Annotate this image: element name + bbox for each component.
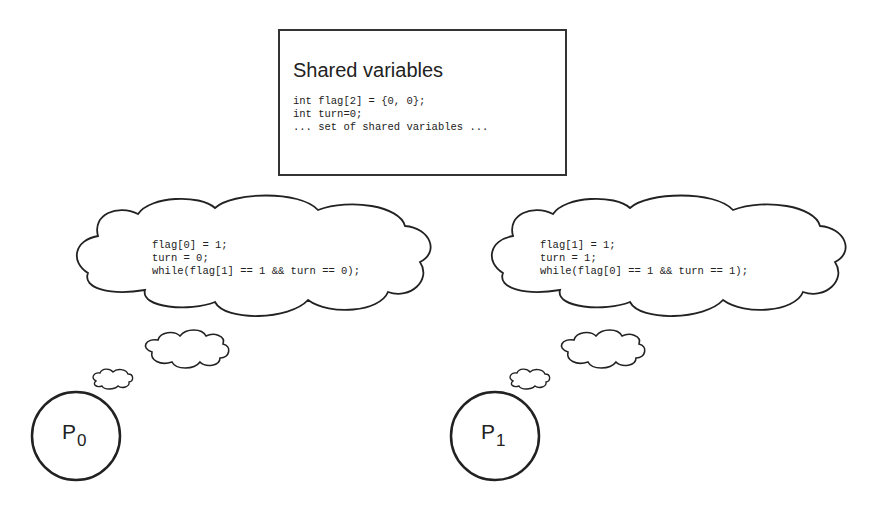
thought-bubble-medium-p0 [145,330,228,368]
code-line: ... set of shared variables ... [293,121,488,134]
code-line: while(flag[0] == 1 && turn == 1); [540,265,748,278]
thought-code-p1: flag[1] = 1;turn = 1;while(flag[0] == 1 … [540,239,748,278]
thought-bubble-small-p1 [510,369,550,389]
process-index: 1 [496,431,505,450]
code-line: flag[0] = 1; [152,239,360,252]
code-line: flag[1] = 1; [540,239,748,252]
thought-code-p0: flag[0] = 1;turn = 0;while(flag[1] == 1 … [152,239,360,278]
code-line: turn = 0; [152,252,360,265]
shared-variables-code: int flag[2] = {0, 0};int turn=0;... set … [293,95,488,134]
code-line: while(flag[1] == 1 && turn == 0); [152,265,360,278]
shared-variables-box: Shared variables int flag[2] = {0, 0};in… [278,29,567,176]
process-name: P [481,420,495,443]
thought-bubble-medium-p1 [561,330,644,368]
process-index: 0 [77,431,86,450]
shared-variables-title: Shared variables [293,59,443,82]
process-label-p0: P0 [62,420,86,451]
code-line: int flag[2] = {0, 0}; [293,95,488,108]
process-label-p1: P1 [481,420,505,451]
code-line: turn = 1; [540,252,748,265]
thought-bubble-small-p0 [93,369,133,389]
code-line: int turn=0; [293,108,488,121]
process-name: P [62,420,76,443]
